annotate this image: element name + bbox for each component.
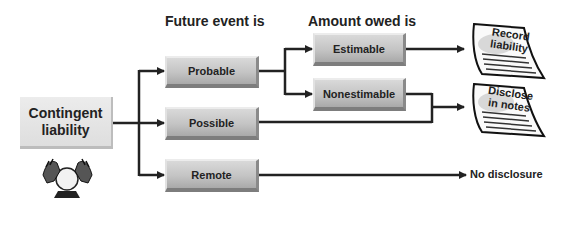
remote-label: Remote	[191, 169, 231, 181]
remote-box: Remote	[165, 159, 259, 192]
estimable-box: Estimable	[313, 33, 406, 66]
nonestimable-label: Nonestimable	[323, 88, 395, 100]
nonestimable-box: Nonestimable	[313, 78, 406, 111]
possible-label: Possible	[189, 117, 234, 129]
probable-box: Probable	[165, 56, 259, 88]
crystal-ball-icon	[40, 153, 95, 199]
contingent-liability-box: Contingentliability	[20, 97, 113, 149]
no-disclosure-label: No disclosure	[470, 168, 543, 180]
probable-label: Probable	[188, 65, 235, 77]
estimable-label: Estimable	[333, 43, 385, 55]
possible-box: Possible	[165, 107, 259, 140]
root-line1: Contingent	[29, 105, 103, 121]
root-line2: liability	[41, 122, 89, 138]
